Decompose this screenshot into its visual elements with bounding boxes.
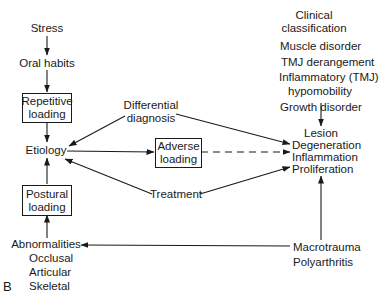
node-polyarthritis: Polyarthritis bbox=[293, 256, 353, 269]
postural-loading-line1: Postural bbox=[26, 188, 68, 201]
abnormality-articular: Articular bbox=[29, 266, 71, 279]
abnormality-occlusal: Occlusal bbox=[29, 252, 73, 265]
repetitive-loading-line2: loading bbox=[28, 108, 65, 121]
classification-inflammatory-tmj: Inflammatory (TMJ) bbox=[279, 71, 379, 84]
node-postural-loading: Postural loading bbox=[22, 185, 72, 216]
node-differential-diagnosis-line2: diagnosis bbox=[127, 112, 176, 125]
postural-loading-line2: loading bbox=[28, 201, 65, 214]
node-differential-diagnosis-line1: Differential bbox=[124, 99, 179, 112]
edge-treatment-proliferation bbox=[200, 167, 290, 194]
repetitive-loading-line1: Repetitive bbox=[21, 95, 72, 108]
edge-macrotrauma-abnormalities bbox=[81, 245, 290, 246]
adverse-loading-line1: Adverse bbox=[157, 140, 199, 153]
node-adverse-loading: Adverse loading bbox=[155, 138, 202, 168]
node-stress: Stress bbox=[31, 22, 64, 35]
classification-hypomobility: hypomobility bbox=[288, 85, 352, 98]
figure-label: B bbox=[3, 280, 12, 293]
node-abnormalities: Abnormalities bbox=[11, 238, 81, 251]
classification-growth-disorder: Growth disorder bbox=[280, 101, 362, 114]
node-oral-habits: Oral habits bbox=[19, 57, 75, 70]
lesion-proliferation: Proliferation bbox=[292, 163, 353, 176]
edge-etiology-adverse bbox=[67, 151, 154, 152]
clinical-classification-line1: Clinical bbox=[295, 9, 332, 22]
node-repetitive-loading: Repetitive loading bbox=[22, 93, 72, 123]
classification-tmj-derangement: TMJ derangement bbox=[281, 56, 374, 69]
node-treatment: Treatment bbox=[150, 188, 202, 201]
edge-diffdx-etiology bbox=[69, 116, 125, 146]
node-macrotrauma: Macrotrauma bbox=[293, 241, 361, 254]
edge-treatment-etiology bbox=[65, 159, 152, 194]
adverse-loading-line2: loading bbox=[160, 153, 197, 166]
clinical-classification-line2: classification bbox=[281, 22, 346, 35]
abnormality-skeletal: Skeletal bbox=[29, 280, 70, 293]
classification-muscle-disorder: Muscle disorder bbox=[280, 40, 361, 53]
node-etiology: Etiology bbox=[26, 144, 67, 157]
